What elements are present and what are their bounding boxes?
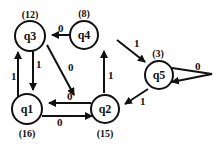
- svg-text:0: 0: [57, 116, 63, 128]
- svg-text:1: 1: [108, 69, 114, 81]
- svg-text:(8): (8): [78, 8, 90, 20]
- node-q5: q5 (3): [145, 48, 173, 89]
- svg-text:0: 0: [68, 61, 74, 73]
- svg-text:(12): (12): [22, 9, 39, 21]
- edge-q1-q2: 0: [42, 116, 92, 128]
- edge-q4-q5: 1: [117, 37, 145, 62]
- node-q3: q3 (12): [15, 9, 45, 51]
- edge-q5-q5-self-loop: 0: [172, 60, 212, 82]
- svg-text:(16): (16): [19, 128, 36, 140]
- svg-text:(3): (3): [152, 48, 164, 60]
- node-q1: q1 (16): [12, 94, 42, 140]
- state-diagram: 0 1 1 0 1 1 0 1 0 0 q3 (12): [0, 0, 219, 146]
- edge-q5-q2: 1: [125, 89, 148, 107]
- svg-text:q3: q3: [24, 29, 37, 43]
- edge-q1-q3: 1: [11, 52, 18, 97]
- svg-text:1: 1: [11, 70, 17, 82]
- svg-text:q4: q4: [78, 28, 91, 42]
- edge-q4-q3: 0: [52, 22, 70, 35]
- svg-text:1: 1: [134, 37, 140, 49]
- node-q2: q2 (15): [91, 95, 119, 140]
- edge-q3-q1: 1: [33, 49, 42, 90]
- svg-text:0: 0: [67, 90, 73, 102]
- edge-q3-q2: 0: [47, 45, 74, 95]
- svg-text:q5: q5: [153, 68, 166, 82]
- svg-text:1: 1: [36, 58, 42, 70]
- edge-q2-q4: 1: [104, 51, 114, 93]
- svg-text:0: 0: [58, 22, 64, 34]
- edge-q2-q1: 0: [49, 90, 91, 103]
- node-q4: q4 (8): [70, 8, 98, 49]
- svg-text:q1: q1: [21, 102, 34, 116]
- svg-text:(15): (15): [97, 128, 114, 140]
- svg-text:1: 1: [140, 95, 146, 107]
- svg-text:0: 0: [195, 60, 201, 72]
- svg-text:q2: q2: [99, 102, 112, 116]
